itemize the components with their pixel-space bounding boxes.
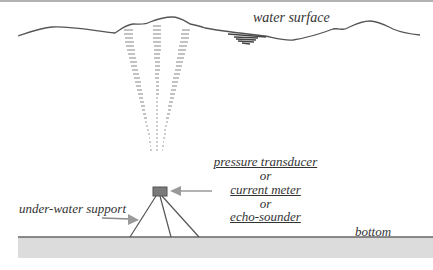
beam-right bbox=[162, 30, 190, 150]
beam-center bbox=[153, 26, 161, 150]
bottom-label: bottom bbox=[355, 225, 391, 238]
seabed bbox=[18, 237, 433, 258]
tripod-support bbox=[130, 196, 199, 237]
acoustic-beams bbox=[124, 26, 190, 150]
instrument-box bbox=[153, 187, 167, 196]
beam-left bbox=[124, 30, 152, 150]
or-label-1: or bbox=[203, 169, 328, 182]
echo-sounder-label: echo-sounder bbox=[203, 210, 328, 223]
current-meter-label: current meter bbox=[203, 183, 328, 196]
pressure-transducer-label: pressure transducer bbox=[203, 155, 328, 168]
water-surface-label: water surface bbox=[253, 11, 330, 25]
diagram-canvas: water surface pressure transducer or cur… bbox=[0, 0, 433, 270]
under-water-support-label: under-water support bbox=[19, 202, 126, 215]
water-surface-line bbox=[18, 17, 420, 40]
